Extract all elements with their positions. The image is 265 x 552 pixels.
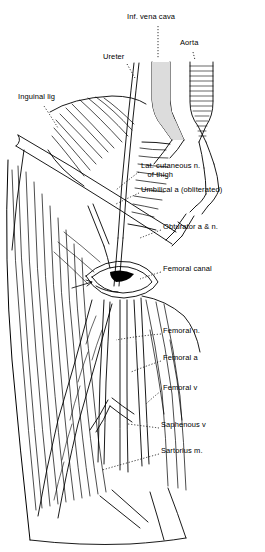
label-obturator-a-and-n: Obturator a & n. <box>163 222 218 231</box>
label-umbilical-a-obliterated: Umbilical a (obliterated) <box>141 185 222 194</box>
sartorius-muscle <box>38 300 112 518</box>
aponeurosis-sheet <box>132 148 168 217</box>
lateral-cutaneous-nerve <box>88 204 110 268</box>
femoral-vessels <box>90 298 149 472</box>
femoral-canal-region <box>72 261 158 298</box>
label-aorta: Aorta <box>180 38 198 47</box>
label-femoral-v: Femoral v <box>163 383 197 392</box>
anatomical-diagram: Inf. vena cava Aorta Ureter Inguinal lig… <box>0 0 265 552</box>
label-inf-vena-cava: Inf. vena cava <box>127 12 175 21</box>
label-sartorius-m: Sartorius m. <box>161 446 203 455</box>
label-inguinal-lig: Inguinal lig <box>18 92 55 101</box>
label-femoral-canal: Femoral canal <box>163 264 212 273</box>
label-saphenous-v: Saphenous v <box>161 420 206 429</box>
label-femoral-n: Femoral n. <box>163 326 200 335</box>
label-lat-cutaneous-n-of-thigh: Lat. cutaneous n. of thigh <box>141 161 200 179</box>
abdominal-wall-fibers <box>52 97 134 176</box>
anatomy-drawing <box>0 0 265 552</box>
label-ureter: Ureter <box>103 52 124 61</box>
thigh-muscle-fibers <box>12 166 106 510</box>
label-femoral-a: Femoral a <box>163 353 198 362</box>
